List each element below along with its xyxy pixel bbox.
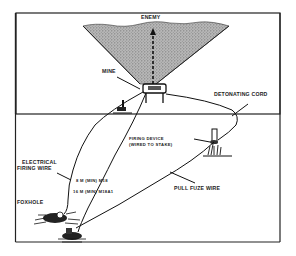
label-firing-device-note: (WIRED TO STAKE) xyxy=(129,143,173,147)
label-distance-m18: 8 M (MIN) M18 xyxy=(76,179,108,183)
kill-zone-fan xyxy=(83,22,229,84)
label-mine: MINE xyxy=(102,69,116,74)
mine-icon xyxy=(143,84,166,103)
label-pull-fuze-wire: PULL FUZE WIRE xyxy=(174,186,220,191)
foxhole-icon xyxy=(34,212,80,224)
test-stake-icon xyxy=(113,100,132,113)
pull-fuze-pointer xyxy=(170,172,195,183)
diagram-canvas xyxy=(0,0,296,256)
detonating-cord xyxy=(166,94,237,140)
clacker-position-icon xyxy=(58,228,86,242)
electrical-pointer xyxy=(57,173,71,180)
label-firing-device: FIRING DEVICE xyxy=(129,137,164,141)
label-distance-m18a1: 16 M (MIN) M18A1 xyxy=(73,190,113,194)
label-detonating-cord: DETONATING CORD xyxy=(214,92,268,97)
label-foxhole: FOXHOLE xyxy=(17,200,43,205)
firing-device-pointer xyxy=(194,139,210,142)
electrical-firing-wire xyxy=(64,92,143,214)
label-enemy: ENEMY xyxy=(141,15,160,20)
label-firing-wire: FIRING WIRE xyxy=(17,166,52,171)
